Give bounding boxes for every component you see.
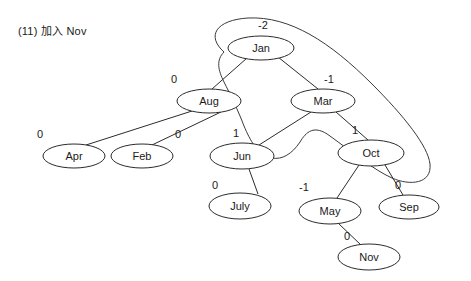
balance-factor-jun: 1 — [233, 127, 239, 139]
node-sep[interactable]: Sep — [379, 195, 439, 219]
node-mar-label: Mar — [314, 95, 333, 107]
node-jun-label: Jun — [233, 150, 251, 162]
node-oct[interactable]: Oct — [338, 140, 404, 166]
node-apr-label: Apr — [65, 150, 82, 162]
node-mar[interactable]: Mar — [291, 89, 355, 113]
node-may-label: May — [320, 205, 341, 217]
balance-factor-nov: 0 — [344, 230, 350, 242]
tree-nodes: Jan -2 Aug 0 Mar -1 Apr 0 Feb 0 Jun 1 — [37, 19, 439, 270]
avl-tree-diagram: Jan -2 Aug 0 Mar -1 Apr 0 Feb 0 Jun 1 — [0, 0, 471, 281]
node-apr[interactable]: Apr — [43, 144, 105, 168]
edge-mar-jun — [259, 112, 311, 145]
node-aug[interactable]: Aug — [177, 89, 241, 113]
node-jun[interactable]: Jun — [210, 143, 274, 169]
balance-factor-apr: 0 — [37, 128, 43, 140]
balance-factor-may: -1 — [299, 181, 309, 193]
node-sep-label: Sep — [399, 201, 419, 213]
edge-jun-july — [249, 169, 258, 194]
node-jan[interactable]: Jan — [228, 36, 294, 60]
edge-jan-aug — [212, 58, 247, 89]
node-aug-label: Aug — [199, 95, 219, 107]
edge-jan-mar — [278, 57, 318, 89]
node-july[interactable]: July — [209, 193, 271, 219]
node-feb-label: Feb — [133, 150, 152, 162]
balance-factor-jan: -2 — [258, 19, 268, 31]
balance-factor-oct: 1 — [352, 124, 358, 136]
balance-factor-sep: 0 — [395, 179, 401, 191]
edge-oct-may — [337, 165, 359, 198]
balance-factor-aug: 0 — [171, 73, 177, 85]
node-feb[interactable]: Feb — [111, 144, 173, 168]
node-oct-label: Oct — [362, 147, 379, 159]
edge-aug-feb — [152, 112, 221, 145]
balance-factor-mar: -1 — [324, 73, 334, 85]
balance-factor-july: 0 — [212, 179, 218, 191]
balance-factor-feb: 0 — [175, 128, 181, 140]
node-nov[interactable]: Nov — [338, 244, 400, 270]
node-may[interactable]: May — [299, 198, 361, 224]
node-nov-label: Nov — [359, 251, 379, 263]
node-july-label: July — [230, 200, 250, 212]
node-jan-label: Jan — [252, 42, 270, 54]
